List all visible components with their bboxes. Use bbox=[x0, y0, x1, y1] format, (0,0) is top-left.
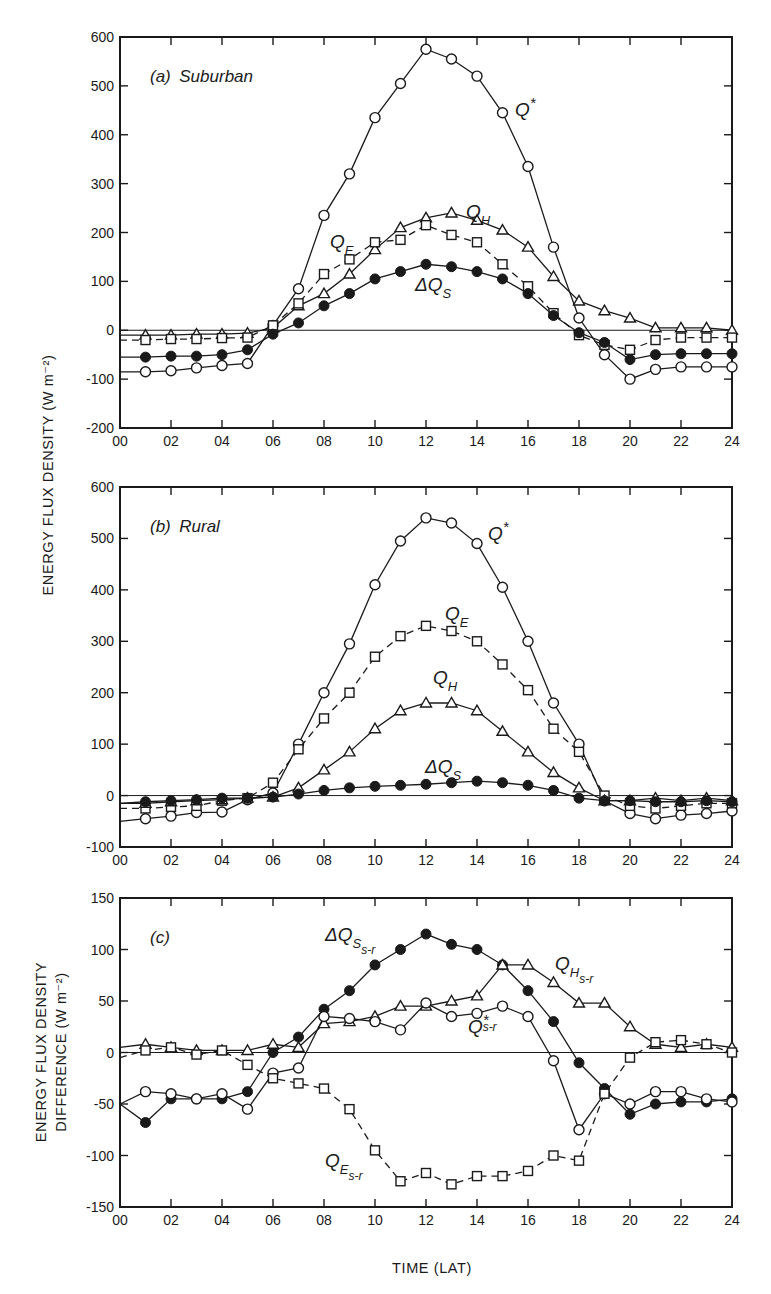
data-point bbox=[345, 639, 355, 649]
data-point bbox=[728, 333, 737, 342]
data-point bbox=[141, 1046, 150, 1055]
data-point bbox=[727, 349, 737, 359]
data-point bbox=[166, 1089, 176, 1099]
x-tick-label: 16 bbox=[520, 1212, 536, 1228]
x-tick-label: 22 bbox=[673, 433, 689, 449]
data-point bbox=[549, 1017, 559, 1027]
data-point bbox=[166, 366, 176, 376]
data-point bbox=[345, 1014, 355, 1024]
x-tick-label: 00 bbox=[112, 1212, 128, 1228]
series--qs-s-r bbox=[120, 929, 737, 1127]
data-point bbox=[524, 686, 533, 695]
data-point bbox=[599, 305, 610, 315]
x-tick-label: 04 bbox=[214, 852, 230, 868]
data-point bbox=[625, 1109, 635, 1119]
y-tick-label: 150 bbox=[91, 890, 115, 906]
label-qstar: Q* bbox=[515, 94, 537, 120]
x-tick-label: 14 bbox=[469, 852, 485, 868]
data-point bbox=[421, 929, 431, 939]
data-point bbox=[319, 1011, 329, 1021]
data-point bbox=[600, 350, 610, 360]
data-point bbox=[320, 714, 329, 723]
data-point bbox=[294, 789, 304, 799]
x-tick-label: 14 bbox=[469, 433, 485, 449]
x-tick-label: 20 bbox=[622, 852, 638, 868]
data-point bbox=[269, 321, 278, 330]
data-point bbox=[702, 796, 712, 806]
data-point bbox=[574, 998, 585, 1008]
x-tick-label: 18 bbox=[571, 433, 587, 449]
x-tick-label: 16 bbox=[520, 852, 536, 868]
data-point bbox=[345, 986, 355, 996]
data-point bbox=[217, 1089, 227, 1099]
data-point bbox=[395, 1001, 406, 1011]
data-point bbox=[574, 328, 584, 338]
data-point bbox=[626, 345, 635, 354]
data-point bbox=[141, 1087, 151, 1097]
energy-balance-figure: 00020406081012141618202224-200-100010020… bbox=[0, 0, 771, 1294]
data-point bbox=[371, 238, 380, 247]
data-point bbox=[497, 225, 508, 235]
data-point bbox=[217, 350, 227, 360]
data-point bbox=[371, 1146, 380, 1155]
data-point bbox=[319, 785, 329, 795]
data-point bbox=[218, 334, 227, 343]
data-point bbox=[421, 259, 431, 269]
x-tick-label: 04 bbox=[214, 1212, 230, 1228]
data-point bbox=[626, 1053, 635, 1062]
data-point bbox=[268, 1048, 278, 1058]
data-point bbox=[395, 222, 406, 232]
panel-title: (b) Rural bbox=[150, 517, 221, 536]
data-point bbox=[422, 621, 431, 630]
data-point bbox=[192, 1050, 201, 1059]
data-point bbox=[473, 238, 482, 247]
series--qs bbox=[120, 776, 737, 807]
y-axis-label-top: ENERGY FLUX DENSITY (W m⁻²) bbox=[40, 355, 56, 596]
data-point bbox=[575, 1156, 584, 1165]
data-point bbox=[447, 518, 457, 528]
data-point bbox=[549, 242, 559, 252]
panel-title: (c) bbox=[150, 928, 170, 947]
data-point bbox=[676, 1087, 686, 1097]
series-q- bbox=[120, 513, 737, 824]
x-tick-label: 04 bbox=[214, 433, 230, 449]
data-point bbox=[167, 335, 176, 344]
data-point bbox=[574, 1125, 584, 1135]
series-line bbox=[120, 934, 732, 1122]
plot-frame bbox=[120, 487, 732, 847]
y-tick-label: 0 bbox=[106, 322, 114, 338]
x-tick-label: 10 bbox=[367, 433, 383, 449]
data-point bbox=[421, 44, 431, 54]
data-point bbox=[702, 333, 711, 342]
data-point bbox=[217, 807, 227, 817]
x-tick-label: 22 bbox=[673, 1212, 689, 1228]
data-point bbox=[676, 362, 686, 372]
data-point bbox=[319, 288, 330, 298]
panel-a-suburban: 00020406081012141618202224-200-100010020… bbox=[86, 29, 740, 449]
data-point bbox=[141, 336, 150, 345]
data-point bbox=[677, 1036, 686, 1045]
data-point bbox=[702, 349, 712, 359]
data-point bbox=[447, 627, 456, 636]
data-point bbox=[396, 1025, 406, 1035]
x-tick-label: 02 bbox=[163, 1212, 179, 1228]
y-tick-label: 100 bbox=[91, 942, 115, 958]
data-point bbox=[728, 1048, 737, 1057]
x-tick-label: 06 bbox=[265, 433, 281, 449]
plot-frame bbox=[120, 37, 732, 428]
data-point bbox=[166, 351, 176, 361]
data-point bbox=[370, 580, 380, 590]
data-point bbox=[498, 778, 508, 788]
data-point bbox=[294, 318, 304, 328]
data-point bbox=[243, 1104, 253, 1114]
data-point bbox=[574, 782, 585, 792]
data-point bbox=[446, 207, 457, 217]
y-tick-label: 300 bbox=[91, 633, 115, 649]
x-tick-label: 00 bbox=[112, 852, 128, 868]
data-point bbox=[243, 333, 252, 342]
data-point bbox=[370, 960, 380, 970]
data-point bbox=[141, 814, 151, 824]
x-tick-label: 06 bbox=[265, 1212, 281, 1228]
series-qh bbox=[120, 698, 738, 808]
data-point bbox=[599, 998, 610, 1008]
